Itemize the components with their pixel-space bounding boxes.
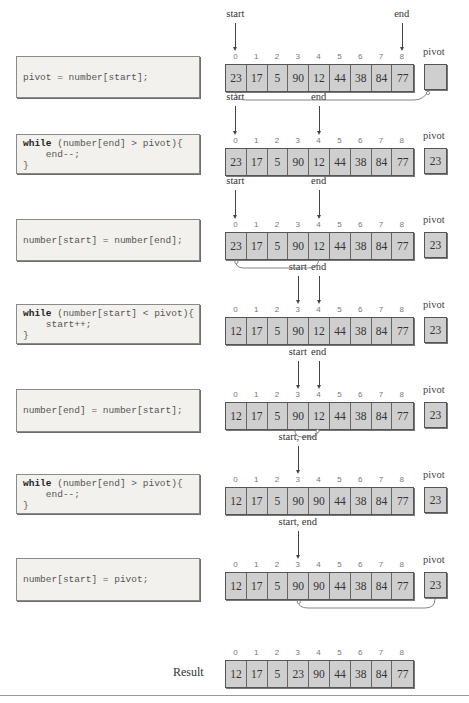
pivot-box: 23	[424, 317, 447, 343]
array-cell: 84	[372, 403, 393, 429]
array-cell: 90	[288, 488, 309, 514]
array-index: 4	[308, 475, 329, 485]
number-array: 12175901244388477	[225, 317, 414, 345]
array-cell: 84	[372, 488, 393, 514]
array-cell: 5	[268, 661, 289, 687]
array-cell: 38	[351, 65, 372, 91]
array-cell: 90	[288, 65, 309, 91]
array-cell: 38	[351, 318, 372, 344]
array-cell: 38	[351, 403, 372, 429]
pointer-label: end	[311, 175, 326, 186]
code-line: start++;	[23, 319, 193, 330]
pivot-box	[424, 64, 447, 90]
array-cell: 17	[247, 149, 268, 175]
array-index: 6	[350, 475, 371, 485]
code-text: number[end] = number[start];	[23, 405, 183, 416]
code-text: pivot = number[start];	[23, 72, 148, 83]
array-cell: 77	[392, 488, 413, 514]
code-snippet: number[end] = number[start];	[16, 389, 200, 432]
array-index: 6	[350, 390, 371, 400]
array-cell: 12	[226, 661, 247, 687]
array-index: 3	[287, 475, 308, 485]
number-array: 12175901244388477	[225, 402, 414, 430]
array-cell: 17	[247, 661, 268, 687]
code-text: (number[end] > pivot){	[52, 478, 183, 489]
array-cell: 90	[309, 488, 330, 514]
array-cell: 90	[309, 573, 330, 599]
code-text: }	[23, 160, 29, 171]
array-cell: 38	[351, 488, 372, 514]
code-keyword: while	[23, 478, 52, 489]
array-index: 8	[391, 136, 412, 146]
array-index: 3	[287, 220, 308, 230]
code-text: }	[23, 500, 29, 511]
pointer-label: end	[311, 91, 326, 102]
array-index: 2	[267, 648, 288, 658]
array-cell: 23	[288, 661, 309, 687]
array-index: 4	[308, 648, 329, 658]
array-index: 6	[350, 52, 371, 62]
pointer-arrow-icon	[319, 276, 320, 301]
array-index: 3	[287, 390, 308, 400]
array-index: 0	[225, 390, 246, 400]
array-index: 7	[371, 305, 392, 315]
array-cell: 84	[372, 149, 393, 175]
array-index: 7	[371, 560, 392, 570]
array-index: 4	[308, 390, 329, 400]
array-cell: 17	[247, 573, 268, 599]
code-snippet: number[start] = pivot;	[16, 558, 200, 601]
array-index: 0	[225, 475, 246, 485]
array-index: 1	[246, 475, 267, 485]
array-index: 5	[329, 475, 350, 485]
pointer-arrow-icon	[298, 361, 299, 386]
code-line: end--;	[23, 489, 193, 500]
array-index: 7	[371, 52, 392, 62]
array-index: 8	[391, 648, 412, 658]
code-text: end--;	[23, 489, 80, 500]
array-index: 5	[329, 305, 350, 315]
array-cell: 77	[392, 149, 413, 175]
code-text: start++;	[23, 319, 91, 330]
array-index: 0	[225, 648, 246, 658]
number-array: 12175909044388477	[225, 487, 414, 515]
pointer-label: start	[289, 346, 307, 357]
pointer-label: start, end	[279, 431, 318, 442]
array-index: 6	[350, 305, 371, 315]
array-cell: 77	[392, 573, 413, 599]
pointer-arrow-icon	[319, 106, 320, 132]
pivot-label: pivot	[423, 469, 445, 480]
pointer-arrow-icon	[235, 23, 236, 48]
array-cell: 44	[330, 149, 351, 175]
code-line: end--;	[23, 149, 193, 160]
pointer-label: start	[226, 8, 244, 19]
array-cell: 38	[351, 661, 372, 687]
number-array: 12175909044388477	[225, 572, 414, 600]
array-index: 0	[225, 220, 246, 230]
pivot-label: pivot	[423, 130, 445, 141]
array-cell: 12	[309, 318, 330, 344]
code-keyword: while	[23, 308, 52, 319]
array-cell: 12	[226, 573, 247, 599]
bottom-divider	[0, 695, 469, 696]
array-cell: 77	[392, 65, 413, 91]
code-line: while (number[start] < pivot){	[23, 308, 193, 319]
array-index: 1	[246, 52, 267, 62]
array-index: 2	[267, 475, 288, 485]
array-cell: 90	[288, 149, 309, 175]
pointer-arrow-icon	[298, 531, 299, 556]
array-index: 2	[267, 390, 288, 400]
pivot-label: pivot	[423, 299, 445, 310]
array-index: 1	[246, 648, 267, 658]
array-index: 2	[267, 220, 288, 230]
array-cell: 12	[309, 65, 330, 91]
array-index: 2	[267, 305, 288, 315]
index-row: 012345678	[225, 52, 412, 62]
index-row: 012345678	[225, 475, 412, 485]
array-index: 8	[391, 390, 412, 400]
array-index: 6	[350, 220, 371, 230]
code-text: end--;	[23, 149, 80, 160]
code-line: while (number[end] > pivot){	[23, 138, 193, 149]
pointer-label: end	[311, 346, 326, 357]
array-cell: 77	[392, 318, 413, 344]
array-cell: 5	[268, 573, 289, 599]
